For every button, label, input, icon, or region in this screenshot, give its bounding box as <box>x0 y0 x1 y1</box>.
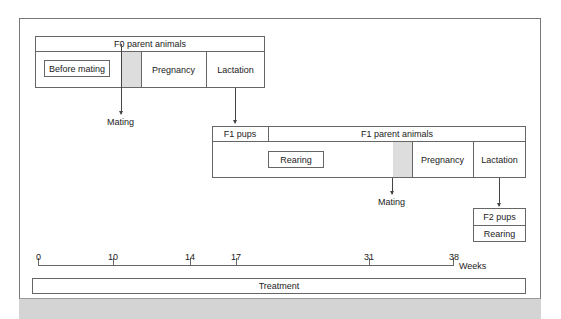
f1-mating-label: Mating <box>378 197 405 207</box>
f0-mating-arrow <box>121 44 122 114</box>
axis-unit: Weeks <box>459 261 486 271</box>
tick-label: 14 <box>185 252 195 262</box>
treatment-bar: Treatment <box>32 278 526 294</box>
tick-label: 0 <box>36 252 41 262</box>
f0-before-mating: Before mating <box>44 60 110 77</box>
tick-label: 31 <box>364 252 374 262</box>
f2-pups: F2 pups <box>473 208 526 225</box>
f0-mating-label: Mating <box>107 117 134 127</box>
f1-mating-period <box>393 142 412 177</box>
f0-lactation: Lactation <box>206 51 265 88</box>
tick-label: 38 <box>449 252 459 262</box>
timeline-axis <box>38 265 454 266</box>
f2-rearing: Rearing <box>473 225 526 242</box>
tick-label: 17 <box>231 252 241 262</box>
f1-rearing: Rearing <box>268 151 324 168</box>
f1-lactation: Lactation <box>473 141 526 178</box>
f1-pregnancy: Pregnancy <box>412 141 473 178</box>
footer-band <box>19 298 541 319</box>
f1-header: F1 parent animals <box>268 126 526 141</box>
f0-header: F0 parent animals <box>35 36 265 51</box>
f0-pregnancy: Pregnancy <box>141 51 206 88</box>
f0-to-f1-arrow <box>235 88 236 123</box>
f1-pups: F1 pups <box>212 126 268 141</box>
f0-mating-period <box>122 52 141 87</box>
f1-to-f2-arrow <box>499 178 500 206</box>
tick-label: 10 <box>108 252 118 262</box>
f1-mating-arrow <box>392 178 393 194</box>
